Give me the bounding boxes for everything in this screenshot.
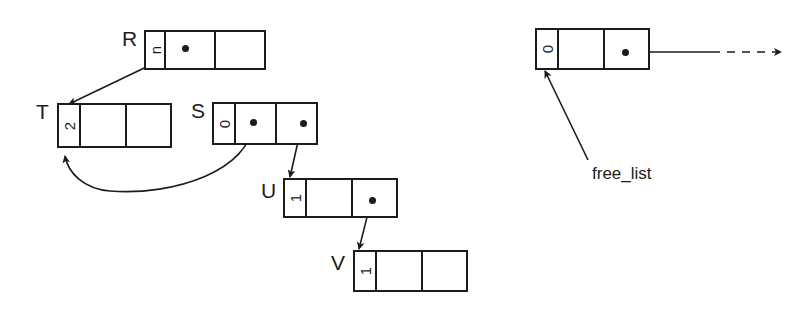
node-S-data-cell <box>277 104 316 143</box>
free-list-label: free_list <box>592 165 652 182</box>
node-U-pointer-cell <box>307 180 353 216</box>
node-label-T: T <box>36 101 49 122</box>
node-R-data-cell <box>216 32 264 68</box>
pointer-dot-S <box>250 119 257 126</box>
node-S-tag-cell: 0 <box>214 104 236 143</box>
node-U-tag-cell: 1 <box>285 180 307 216</box>
node-R-tag-value: n <box>148 46 163 54</box>
node-label-U: U <box>261 180 276 201</box>
node-V-pointer-cell <box>377 252 423 290</box>
node-S-tag-value: 0 <box>217 119 232 127</box>
node-free-tag-cell: 0 <box>537 30 559 68</box>
pointer-dot-free <box>622 49 629 56</box>
node-T-data-cell <box>127 105 171 146</box>
node-T-tag-cell: 2 <box>59 105 81 146</box>
node-V-tag-cell: 1 <box>355 252 377 290</box>
node-label-V: V <box>331 252 345 273</box>
node-U: 1 <box>283 178 398 218</box>
node-free-data-cell <box>559 30 605 68</box>
node-label-S: S <box>191 100 205 121</box>
node-S-pointer-cell <box>236 104 277 143</box>
node-label-R: R <box>122 28 137 49</box>
node-free-list-head: 0 <box>535 28 650 70</box>
node-V-tag-value: 1 <box>358 267 373 275</box>
node-U-tag-value: 1 <box>288 194 303 202</box>
node-R-tag-cell: n <box>146 32 166 68</box>
pointer-dot-S <box>300 120 307 127</box>
node-V-data-cell <box>423 252 467 290</box>
node-free-tag-value: 0 <box>540 45 555 53</box>
diagram-canvas: R n T 2 S 0 U 1 V 1 <box>0 0 795 320</box>
node-R: n <box>144 30 266 70</box>
edge-free-list-leader <box>545 71 588 160</box>
node-T-tag-value: 2 <box>62 121 77 129</box>
pointer-dot-R <box>182 45 189 52</box>
node-T-pointer-cell <box>81 105 127 146</box>
node-R-pointer-cell <box>166 32 216 68</box>
node-V: 1 <box>353 250 468 292</box>
node-T: 2 <box>57 103 172 148</box>
pointer-dot-U <box>369 197 376 204</box>
